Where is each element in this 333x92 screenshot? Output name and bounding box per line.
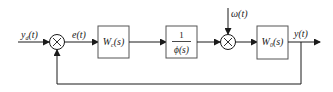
summing-junction-2 — [221, 35, 236, 50]
plant-block: W0(s) — [257, 26, 288, 59]
summing-junction-1 — [50, 35, 65, 50]
disturbance-signal-label: ω(t) — [231, 8, 248, 20]
fraction-denominator: ϕ(s) — [174, 45, 189, 56]
controller-block: Wc(s) — [98, 26, 129, 58]
error-signal-label: e(t) — [72, 29, 87, 41]
controller-block-label: Wc(s) — [103, 36, 125, 48]
plant-inverse-block: 1 ϕ(s) — [166, 26, 197, 58]
block-diagram: yd(t) e(t) Wc(s) 1 ϕ(s) ω(t) — [0, 0, 333, 92]
fraction-numerator: 1 — [179, 30, 184, 40]
plant-block-label: W0(s) — [262, 36, 285, 48]
input-signal-label: yd(t) — [20, 29, 39, 41]
output-signal-label: y(t) — [293, 28, 309, 40]
